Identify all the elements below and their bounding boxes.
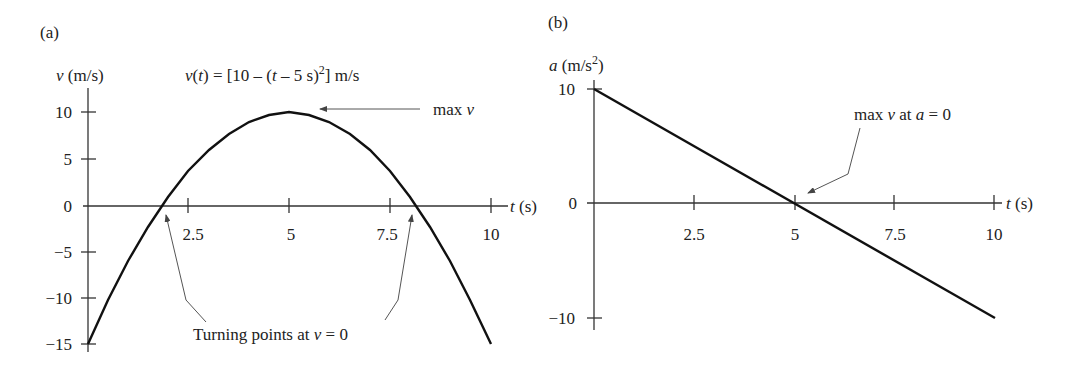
- panel-a-label: (a): [40, 23, 59, 42]
- panel-a-y-axis-label: v (m/s): [56, 66, 104, 85]
- panel-b-x-tick-labels: 2.5 5 7.5 10: [683, 225, 1002, 244]
- svg-text:−5: −5: [54, 243, 72, 262]
- svg-text:−10: −10: [548, 309, 575, 328]
- svg-text:10: 10: [986, 225, 1003, 244]
- svg-text:−10: −10: [45, 289, 72, 308]
- panel-b-y-axis-label: a (m/s2): [549, 53, 604, 75]
- svg-text:5: 5: [791, 225, 800, 244]
- max-v-label: max v: [433, 100, 475, 119]
- svg-text:10: 10: [55, 103, 72, 122]
- max-v-at-a-zero-arrow: [808, 128, 860, 193]
- svg-text:10: 10: [483, 225, 500, 244]
- svg-text:2.5: 2.5: [683, 225, 704, 244]
- svg-text:0: 0: [64, 197, 73, 216]
- svg-text:0: 0: [569, 194, 578, 213]
- figure: (a) v (m/s) v(t) = [10 – (t – 5 s)2] m/s…: [0, 0, 1082, 367]
- svg-text:5: 5: [64, 150, 73, 169]
- panel-a-y-tick-labels: 10 5 0 −5 −10 −15: [45, 103, 72, 354]
- panel-a-x-tick-labels: 2.5 5 7.5 10: [182, 225, 499, 244]
- panel-b: (b) a (m/s2) 10 0 −10 2.5 5 7.5 10 t (s: [548, 13, 1033, 330]
- svg-text:7.5: 7.5: [884, 225, 905, 244]
- svg-text:7.5: 7.5: [376, 225, 397, 244]
- panel-b-y-tick-labels: 10 0 −10: [548, 80, 577, 328]
- panel-a: (a) v (m/s) v(t) = [10 – (t – 5 s)2] m/s…: [40, 23, 537, 354]
- panel-a-x-axis-label: t (s): [510, 197, 537, 216]
- svg-text:5: 5: [287, 225, 296, 244]
- turning-points-label: Turning points at v = 0: [193, 325, 348, 344]
- panel-b-label: (b): [548, 13, 568, 32]
- svg-text:10: 10: [558, 80, 575, 99]
- svg-text:−15: −15: [45, 335, 72, 354]
- panel-a-equation: v(t) = [10 – (t – 5 s)2] m/s: [185, 63, 359, 85]
- max-v-at-a-zero-label: max v at a = 0: [854, 105, 951, 124]
- panel-b-x-axis-label: t (s): [1006, 194, 1033, 213]
- svg-text:2.5: 2.5: [182, 225, 203, 244]
